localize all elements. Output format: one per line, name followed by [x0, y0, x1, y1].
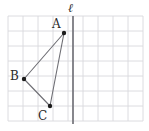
triangle-outline [24, 33, 64, 106]
figure-canvas [0, 0, 149, 131]
geometry-figure: ℓ A B C [0, 0, 149, 131]
vertex-label-b: B [10, 70, 19, 82]
line-label-l: ℓ [68, 2, 73, 14]
vertex-dot-b [22, 77, 26, 81]
grid-lines [8, 16, 143, 121]
vertex-dot-a [62, 31, 66, 35]
vertex-label-a: A [52, 18, 61, 30]
vertex-dot-c [48, 104, 52, 108]
vertex-dots [22, 31, 66, 108]
vertex-label-c: C [38, 110, 47, 122]
